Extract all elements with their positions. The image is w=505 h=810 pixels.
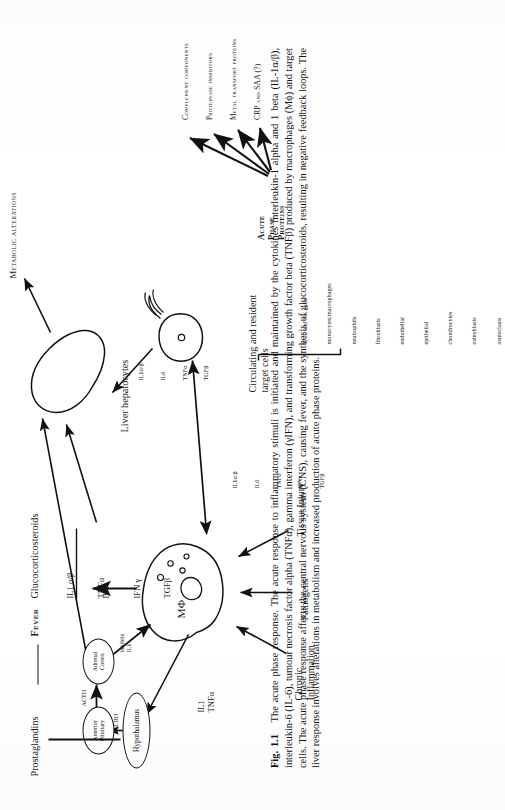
figure-title: The acute phase response. bbox=[269, 610, 280, 722]
label-il1-tnfa-left: IL1 TNFα bbox=[197, 692, 217, 713]
apr-complement-components: Complement components bbox=[182, 43, 190, 120]
connector-hypothalamus-prostaglandins bbox=[49, 739, 121, 741]
label-fever: Fever bbox=[29, 609, 40, 637]
label-target-cells-heading: Circulating and resident target cells bbox=[247, 295, 271, 393]
node-anterior-pituitary-label: Anterior Pituitary bbox=[92, 720, 105, 741]
label-liver-hepatocytes: Liver hepatocytes bbox=[119, 360, 130, 433]
apr-metal-transport-proteins: Metal transport proteins bbox=[230, 39, 238, 120]
apr-proteinase-inhibitors: Proteinase inhibitors bbox=[206, 53, 214, 120]
cyt-tl-2: TNFα bbox=[180, 363, 187, 380]
cytokine-ifng: IFN γ bbox=[131, 578, 141, 599]
cell-type-6: chondrocytes bbox=[446, 283, 454, 344]
cyt-tl-3: TGFβ bbox=[202, 363, 209, 380]
caption-rotation-wrapper: Fig. 1.1 The acute phase response. The a… bbox=[268, 48, 386, 768]
scanned-figure-page: Hypothalamus Anterior Pituitary Adrenal … bbox=[0, 0, 505, 810]
cytokine-list-target-to-liver: IL1α/β IL6 TNFα TGFβ bbox=[123, 363, 224, 380]
node-adrenal-cortex: Adrenal Cortex bbox=[83, 639, 115, 685]
cytokine-tgfb: TGFβ bbox=[162, 578, 172, 599]
apr-crp-saa: CRP and SAA (?) bbox=[254, 64, 262, 120]
cyt-mt-1: IL6 bbox=[252, 471, 259, 488]
label-metabolic-alterations: Metabolic alterations bbox=[9, 192, 18, 278]
cell-type-8: osteoclasts bbox=[494, 283, 502, 344]
cell-type-7: osteoblasts bbox=[470, 283, 478, 344]
arrow-liver-to-metabolic bbox=[25, 279, 51, 333]
cytokine-list-macrophage-group2: IL6 IFN γ TGFβ bbox=[81, 578, 193, 599]
label-glucocorticosteroids: Glucocorticosteroids bbox=[29, 514, 40, 599]
label-inhibits-il1: inhibits IL1 bbox=[119, 634, 133, 653]
cytokine-il1ab: IL1 α/β bbox=[65, 573, 75, 599]
node-hypothalamus: Hypothalamus bbox=[123, 693, 151, 769]
node-adrenal-cortex-label: Adrenal Cortex bbox=[92, 652, 105, 672]
cell-type-4: endothelial bbox=[397, 283, 405, 344]
figure-number: Fig. 1.1 bbox=[269, 734, 280, 768]
cyt-tl-0: IL1α/β bbox=[137, 363, 144, 380]
liver-hepatocyte-outline bbox=[31, 330, 104, 412]
target-cell-outline bbox=[145, 290, 203, 362]
cyt-tl-1: IL6 bbox=[158, 363, 165, 380]
cyt-mt-0: IL1α/β bbox=[231, 471, 238, 488]
node-anterior-pituitary: Anterior Pituitary bbox=[83, 707, 115, 755]
arrow-macrophage-to-hypothalamus bbox=[147, 635, 189, 715]
cell-type-5: epithelial bbox=[422, 283, 430, 344]
label-acth: ACTH bbox=[81, 690, 88, 707]
label-macrophage: MΦ bbox=[175, 600, 187, 618]
cytokine-il6: IL6 bbox=[101, 578, 111, 599]
arrow-macrophage-target-bidirectional bbox=[193, 361, 207, 533]
arrow-glucocorticosteroids-to-liver bbox=[43, 419, 87, 655]
label-crh: CRH bbox=[113, 714, 120, 727]
arrow-macrophage-to-liver bbox=[67, 425, 97, 523]
node-hypothalamus-label: Hypothalamus bbox=[133, 709, 141, 752]
connector-prostaglandins-fever bbox=[38, 645, 39, 685]
figure-caption: Fig. 1.1 The acute phase response. The a… bbox=[268, 48, 386, 768]
label-prostaglandins: Prostaglandins bbox=[29, 717, 40, 777]
